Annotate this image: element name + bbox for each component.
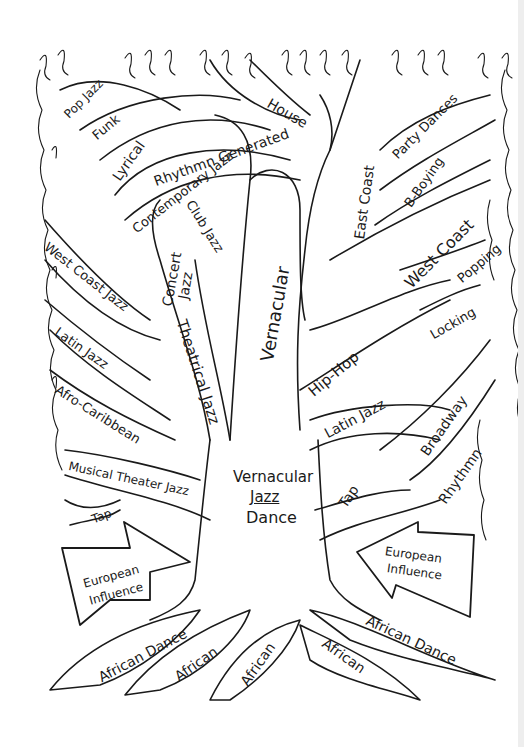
trunk-outline-left [150, 440, 210, 620]
page-edge [518, 0, 524, 747]
trunk-label-line3: Dance [246, 510, 297, 526]
jazz-dance-tree-diagram: Vernacular Jazz Dance Vernacular Theatri… [0, 0, 524, 747]
vine-decoration-top [40, 50, 512, 80]
trunk-outline-right [318, 440, 380, 620]
vine-decoration-right [477, 70, 523, 540]
vine-decoration-left [36, 70, 62, 470]
trunk-label-line1: Vernacular [233, 470, 313, 485]
trunk-label-line2: Jazz [250, 490, 279, 505]
